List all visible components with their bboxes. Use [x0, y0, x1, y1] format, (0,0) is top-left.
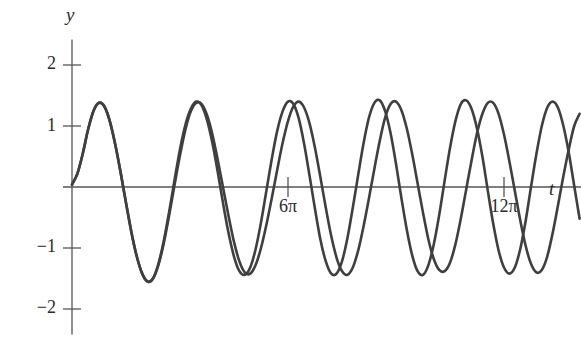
- y-axis-label: y: [66, 4, 74, 26]
- x-tick-label-12pi: 12π: [474, 196, 534, 217]
- x-tick-label-6pi: 6π: [258, 196, 318, 217]
- chart-figure: y t 2 1 −1 −2 6π 12π: [0, 0, 581, 348]
- x-axis-label: t: [549, 178, 554, 200]
- y-tick-label-2: 2: [10, 53, 56, 74]
- chart-canvas: [0, 0, 581, 348]
- y-tick-label-minus-1: −1: [4, 236, 56, 257]
- y-tick-label-1: 1: [10, 115, 56, 136]
- y-tick-label-minus-2: −2: [4, 297, 56, 318]
